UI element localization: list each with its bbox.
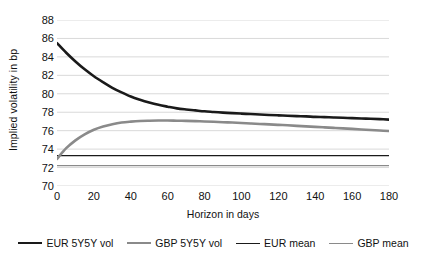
y-axis-tick-84: 84: [28, 51, 54, 63]
legend-swatch-icon: [329, 243, 353, 244]
legend-swatch-icon: [127, 242, 151, 244]
x-axis-tick-180: 180: [372, 190, 406, 202]
plot-svg: [57, 20, 389, 186]
y-axis-tick-72: 72: [28, 162, 54, 174]
chart-legend: EUR 5Y5Y volGBP 5Y5Y volEUR meanGBP mean: [0, 238, 427, 249]
x-axis-tick-140: 140: [298, 190, 332, 202]
legend-label: GBP 5Y5Y vol: [155, 238, 222, 249]
y-axis-tick-80: 80: [28, 88, 54, 100]
y-axis-tick-76: 76: [28, 125, 54, 137]
chart-figure: Implied volatility in bp 707274767880828…: [0, 0, 427, 264]
x-axis-tick-160: 160: [335, 190, 369, 202]
x-axis-title: Horizon in days: [57, 208, 389, 220]
y-axis-tick-82: 82: [28, 69, 54, 81]
y-axis-tick-labels: 70727476788082848688: [26, 0, 54, 264]
legend-label: EUR mean: [264, 238, 315, 249]
legend-item-gbp-5y5y-vol[interactable]: GBP 5Y5Y vol: [127, 238, 222, 249]
y-axis-tick-78: 78: [28, 106, 54, 118]
legend-item-gbp-mean[interactable]: GBP mean: [329, 238, 408, 249]
y-axis-title: Implied volatility in bp: [2, 0, 24, 200]
y-axis-tick-88: 88: [28, 14, 54, 26]
x-axis-tick-20: 20: [77, 190, 111, 202]
y-axis-tick-74: 74: [28, 143, 54, 155]
y-axis-tick-86: 86: [28, 32, 54, 44]
series-line-eur-5y5y-vol: [57, 43, 389, 120]
y-axis-title-text: Implied volatility in bp: [7, 49, 19, 151]
legend-label: GBP mean: [357, 238, 408, 249]
series-line-gbp-5y5y-vol: [57, 120, 389, 158]
legend-swatch-icon: [18, 242, 42, 244]
x-axis-tick-40: 40: [114, 190, 148, 202]
x-axis-tick-0: 0: [40, 190, 74, 202]
x-axis-tick-60: 60: [151, 190, 185, 202]
legend-swatch-icon: [236, 243, 260, 244]
x-axis-tick-80: 80: [188, 190, 222, 202]
x-axis-tick-100: 100: [224, 190, 258, 202]
legend-item-eur-5y5y-vol[interactable]: EUR 5Y5Y vol: [18, 238, 113, 249]
plot-area: [57, 20, 389, 186]
x-axis-tick-120: 120: [261, 190, 295, 202]
legend-item-eur-mean[interactable]: EUR mean: [236, 238, 315, 249]
legend-label: EUR 5Y5Y vol: [46, 238, 113, 249]
